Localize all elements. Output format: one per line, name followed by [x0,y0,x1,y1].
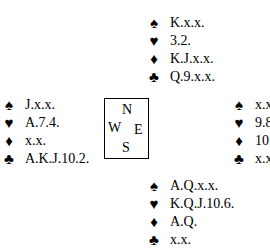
spade-icon: ♠ [232,96,246,114]
west-hearts-cards: A.7.4. [25,114,60,132]
north-hearts-cards: 3.2. [170,32,191,50]
compass-north: N [122,103,132,117]
heart-icon: ♥ [147,195,161,213]
south-diamonds-cards: A.Q. [170,213,197,231]
diamond-icon: ♦ [147,50,161,68]
east-diamonds-cards: 10.x.x.x.x. [255,132,270,150]
spade-icon: ♠ [147,177,161,195]
heart-icon: ♥ [2,114,16,132]
compass-east: E [134,123,143,137]
heart-icon: ♥ [232,114,246,132]
spade-icon: ♠ [2,96,16,114]
club-icon: ♣ [232,150,246,168]
north-clubs-cards: Q.9.x.x. [170,68,215,86]
compass-west: W [108,121,121,135]
diamond-icon: ♦ [232,132,246,150]
heart-icon: ♥ [147,32,161,50]
north-spades-cards: K.x.x. [170,14,205,32]
west-clubs-cards: A.K.J.10.2. [25,150,89,168]
club-icon: ♣ [147,231,161,249]
south-hearts-cards: K.Q.J.10.6. [170,195,234,213]
west-spades-cards: J.x.x. [25,96,55,114]
east-hearts-cards: 9.8.5. [255,114,270,132]
club-icon: ♣ [147,68,161,86]
club-icon: ♣ [2,150,16,168]
diamond-icon: ♦ [147,213,161,231]
east-clubs-cards: x.x. [255,150,270,168]
compass-south: S [122,141,130,155]
south-spades-cards: A.Q.x.x. [170,177,218,195]
west-diamonds-cards: x.x. [25,132,46,150]
east-spades-cards: x.x.x. [255,96,270,114]
compass-box: N W E S [104,98,149,159]
south-clubs-cards: x.x. [170,231,191,249]
spade-icon: ♠ [147,14,161,32]
north-diamonds-cards: K.J.x.x. [170,50,214,68]
diamond-icon: ♦ [2,132,16,150]
